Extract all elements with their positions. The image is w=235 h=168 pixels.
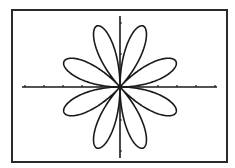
polar-rose-plot [0,0,235,168]
